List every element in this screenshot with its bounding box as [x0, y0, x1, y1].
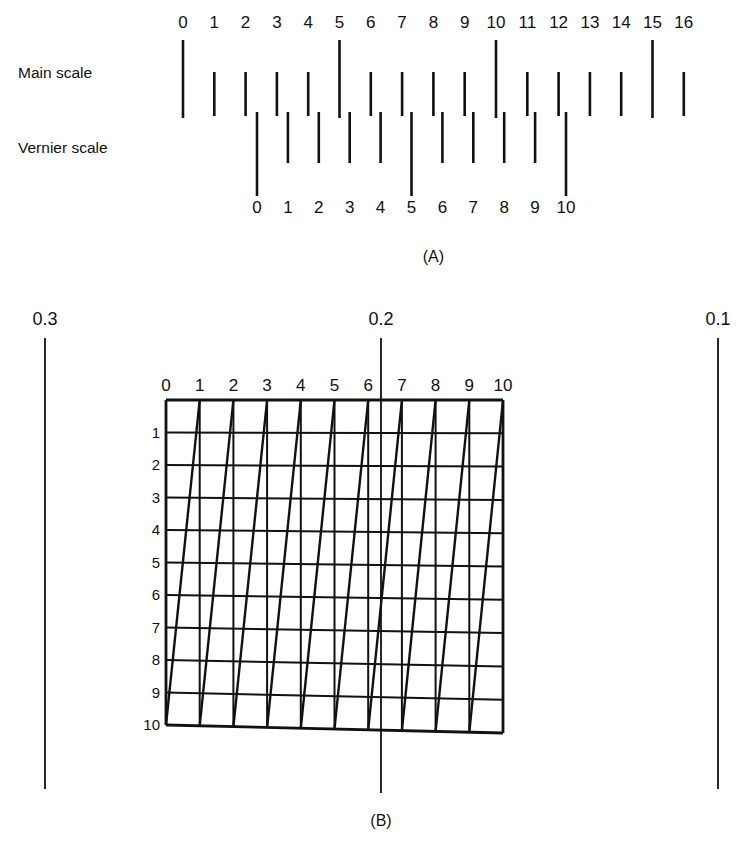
- vernier-and-transversal-scale-figure: Main scaleVernier scale01234567891011121…: [0, 0, 736, 854]
- figure-canvas: Main scaleVernier scale01234567891011121…: [0, 0, 736, 854]
- grid-row-label-8: 8: [152, 651, 160, 668]
- vernier-scale-tick-label-8: 8: [499, 198, 508, 217]
- grid-column-label-3: 3: [262, 376, 271, 395]
- grid-column-label-1: 1: [195, 376, 204, 395]
- main-scale-tick-label-15: 15: [643, 13, 662, 32]
- grid-column-label-8: 8: [431, 376, 440, 395]
- grid-row-label-4: 4: [152, 521, 160, 538]
- main-scale-tick-label-13: 13: [580, 13, 599, 32]
- main-scale-tick-label-0: 0: [178, 13, 187, 32]
- vernier-scale-tick-label-6: 6: [438, 198, 447, 217]
- main-scale-tick-label-10: 10: [487, 13, 506, 32]
- grid-column-label-9: 9: [465, 376, 474, 395]
- grid-column-label-4: 4: [296, 376, 305, 395]
- grid-column-label-6: 6: [363, 376, 372, 395]
- main-scale-tick-label-16: 16: [674, 13, 693, 32]
- main-scale-tick-label-4: 4: [303, 13, 312, 32]
- main-scale-tick-label-2: 2: [241, 13, 250, 32]
- main-scale-tick-label-14: 14: [612, 13, 631, 32]
- main-scale-tick-label-9: 9: [460, 13, 469, 32]
- grid-row-label-9: 9: [152, 684, 160, 701]
- reference-line-label-0.3: 0.3: [32, 309, 57, 329]
- vernier-scale-tick-label-4: 4: [376, 198, 385, 217]
- panel-b-caption: (B): [370, 812, 391, 829]
- grid-row-label-6: 6: [152, 586, 160, 603]
- grid-column-label-5: 5: [330, 376, 339, 395]
- vernier-scale-tick-label-0: 0: [252, 198, 261, 217]
- grid-column-label-0: 0: [161, 376, 170, 395]
- main-scale-tick-label-5: 5: [335, 13, 344, 32]
- grid-row-label-3: 3: [152, 489, 160, 506]
- grid-column-label-10: 10: [494, 376, 513, 395]
- vernier-scale-tick-label-7: 7: [469, 198, 478, 217]
- reference-line-label-0.2: 0.2: [368, 309, 393, 329]
- grid-row-label-7: 7: [152, 619, 160, 636]
- main-scale-tick-label-12: 12: [549, 13, 568, 32]
- main-scale-text-label: Main scale: [18, 64, 92, 81]
- grid-row-label-1: 1: [152, 424, 160, 441]
- reference-line-label-0.1: 0.1: [705, 309, 730, 329]
- main-scale-tick-label-6: 6: [366, 13, 375, 32]
- vernier-scale-tick-label-5: 5: [407, 198, 416, 217]
- grid-column-label-2: 2: [229, 376, 238, 395]
- vernier-scale-text-label: Vernier scale: [18, 139, 108, 156]
- vernier-scale-tick-label-10: 10: [557, 198, 576, 217]
- grid-row-label-2: 2: [152, 456, 160, 473]
- grid-column-label-7: 7: [397, 376, 406, 395]
- main-scale-tick-label-3: 3: [272, 13, 281, 32]
- vernier-scale-tick-label-2: 2: [314, 198, 323, 217]
- main-scale-tick-label-1: 1: [210, 13, 219, 32]
- main-scale-tick-label-8: 8: [429, 13, 438, 32]
- vernier-scale-tick-label-1: 1: [283, 198, 292, 217]
- grid-row-label-5: 5: [152, 554, 160, 571]
- grid-row-label-10: 10: [143, 716, 160, 733]
- vernier-scale-tick-label-3: 3: [345, 198, 354, 217]
- main-scale-tick-label-7: 7: [397, 13, 406, 32]
- main-scale-tick-label-11: 11: [518, 13, 536, 32]
- panel-a-caption: (A): [423, 248, 444, 265]
- vernier-scale-tick-label-9: 9: [530, 198, 539, 217]
